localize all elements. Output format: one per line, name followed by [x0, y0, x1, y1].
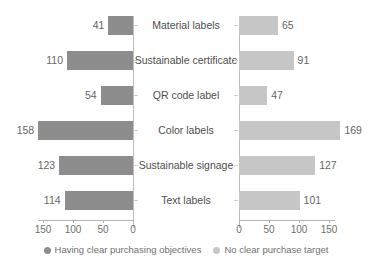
row-tick-left — [134, 165, 138, 166]
bar-right — [239, 16, 278, 35]
row-tick-right — [234, 60, 238, 61]
row-tick-left — [134, 200, 138, 201]
bar-row: 123127Sustainable signage — [0, 148, 372, 183]
bar-row: 114101Text labels — [0, 183, 372, 218]
bar-row: 4165Material labels — [0, 8, 372, 43]
bar-row: 158169Color labels — [0, 113, 372, 148]
row-tick-right — [234, 95, 238, 96]
bar-row: 11091Sustainable certificate — [0, 43, 372, 78]
row-tick-right — [234, 200, 238, 201]
category-label: Text labels — [133, 191, 239, 210]
axis-tick-label-left: 150 — [30, 224, 56, 235]
bar-value-label-right: 91 — [298, 51, 310, 70]
bar-left — [67, 51, 133, 70]
bar-right — [239, 191, 300, 210]
axis-tick-label-right: 100 — [286, 224, 312, 235]
bar-left — [65, 191, 133, 210]
plot-area: 4165Material labels11091Sustainable cert… — [0, 8, 372, 220]
category-label: Sustainable certificate — [133, 51, 239, 70]
category-label: Color labels — [133, 121, 239, 140]
row-tick-left — [134, 25, 138, 26]
row-tick-left — [134, 60, 138, 61]
circle-marker-icon — [44, 247, 51, 254]
bar-value-label-left: 110 — [46, 51, 63, 70]
axis-tick-label-left: 100 — [60, 224, 86, 235]
axis-tick-left — [133, 220, 134, 223]
bar-value-label-left: 114 — [44, 191, 61, 210]
axis-tick-right — [329, 220, 330, 223]
bar-value-label-right: 169 — [344, 121, 362, 140]
bar-value-label-left: 41 — [93, 16, 105, 35]
legend-item-label: Having clear purchasing objectives — [55, 244, 202, 255]
row-tick-right — [234, 25, 238, 26]
axis-tick-right — [269, 220, 270, 223]
bar-value-label-right: 47 — [271, 86, 283, 105]
bar-left — [101, 86, 133, 105]
bar-right — [239, 86, 267, 105]
bar-value-label-right: 65 — [282, 16, 294, 35]
left-value-axis — [38, 220, 134, 221]
chart-legend: Having clear purchasing objectivesNo cle… — [0, 244, 372, 255]
bar-right — [239, 156, 315, 175]
legend-item[interactable]: Having clear purchasing objectives — [44, 244, 202, 255]
bar-value-label-right: 127 — [319, 156, 337, 175]
axis-tick-label-right: 150 — [316, 224, 342, 235]
legend-item-label: No clear purchase target — [224, 244, 328, 255]
row-tick-right — [234, 165, 238, 166]
right-value-axis — [239, 220, 335, 221]
bar-value-label-left: 158 — [17, 121, 35, 140]
row-tick-left — [134, 95, 138, 96]
row-tick-left — [134, 130, 138, 131]
category-label: Material labels — [133, 16, 239, 35]
axis-tick-left — [43, 220, 44, 223]
bar-row: 5447QR code label — [0, 78, 372, 113]
axis-tick-right — [299, 220, 300, 223]
diverging-bar-chart: 4165Material labels11091Sustainable cert… — [0, 0, 372, 267]
axis-tick-label-right: 0 — [226, 224, 252, 235]
axis-tick-label-left: 0 — [120, 224, 146, 235]
bar-value-label-left: 123 — [38, 156, 56, 175]
category-label: QR code label — [133, 86, 239, 105]
bar-left — [38, 121, 133, 140]
category-label: Sustainable signage — [133, 156, 239, 175]
bar-value-label-right: 101 — [304, 191, 322, 210]
bar-right — [239, 121, 340, 140]
axis-tick-left — [73, 220, 74, 223]
bar-left — [108, 16, 133, 35]
axis-tick-left — [103, 220, 104, 223]
bar-right — [239, 51, 294, 70]
bar-left — [59, 156, 133, 175]
axis-tick-right — [239, 220, 240, 223]
axis-tick-label-left: 50 — [90, 224, 116, 235]
legend-item[interactable]: No clear purchase target — [213, 244, 328, 255]
bar-value-label-left: 54 — [85, 86, 97, 105]
axis-tick-label-right: 50 — [256, 224, 282, 235]
row-tick-right — [234, 130, 238, 131]
circle-marker-icon — [213, 247, 220, 254]
